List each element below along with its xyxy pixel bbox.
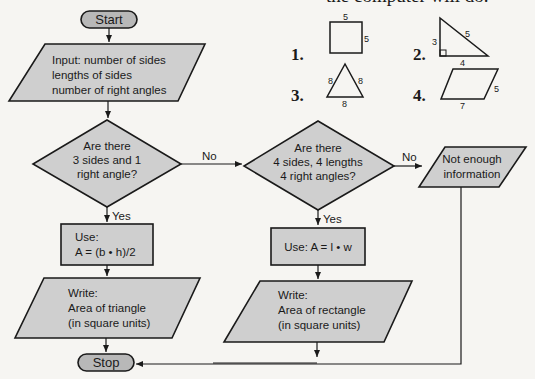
- start-label: Start: [95, 12, 123, 27]
- input-line-1: Input: number of sides: [52, 54, 166, 66]
- process1-line-1: Use:: [75, 231, 99, 243]
- decision2-no-label: No: [402, 151, 417, 163]
- output2-line-2: Area of rectangle: [278, 304, 366, 316]
- process2-rect: Use: A = l • w: [271, 228, 365, 265]
- decision1-no-label: No: [202, 150, 217, 162]
- figure-3-equilateral-triangle: 3. 8 8 8: [291, 64, 363, 109]
- figure-4-number: 4.: [413, 86, 426, 105]
- flowchart-canvas: the computer will do. Start Input: numbe…: [0, 0, 535, 379]
- input-parallelogram: Input: number of sides lengths of sides …: [9, 44, 205, 101]
- figure-2-label-left: 3: [432, 37, 437, 47]
- decision1-line-3: right angle?: [77, 168, 137, 180]
- stop-terminal: Stop: [78, 354, 134, 371]
- input-line-3: number of right angles: [52, 84, 167, 96]
- figure-4-label-right: 5: [494, 84, 499, 94]
- decision1-line-2: 3 sides and 1: [73, 154, 141, 166]
- output3-line-1: Not enough: [442, 153, 501, 165]
- output2-line-3: (in square units): [278, 319, 361, 331]
- output1-parallelogram: Write: Area of triangle (in square units…: [15, 278, 200, 338]
- figure-2-number: 2.: [413, 45, 426, 64]
- figure-3-label-left: 8: [328, 76, 333, 86]
- figure-1-label-right: 5: [364, 34, 369, 44]
- decision1-diamond: Are there 3 sides and 1 right angle?: [33, 120, 181, 207]
- figure-3-number: 3.: [291, 86, 304, 105]
- process2-label: Use: A = l • w: [284, 241, 352, 253]
- process1-line-2: A = (b • h)/2: [75, 246, 136, 258]
- decision2-line-1: Are there: [294, 142, 341, 154]
- decision1-line-1: Are there: [83, 140, 130, 152]
- figure-4-parallelogram: 4. 5 7: [413, 69, 499, 111]
- decision2-diamond: Are there 4 sides, 4 lengths 4 right ang…: [244, 121, 394, 210]
- start-terminal: Start: [81, 11, 137, 28]
- output3-line-2: information: [444, 168, 501, 180]
- decision2-line-3: 4 right angles?: [280, 170, 355, 182]
- figure-3-label-right: 8: [358, 76, 363, 86]
- figure-2-label-bottom: 4: [460, 58, 465, 68]
- output3-parallelogram: Not enough information: [419, 147, 526, 187]
- output2-line-1: Write:: [278, 289, 308, 301]
- figure-2-label-hyp: 5: [465, 29, 470, 39]
- figure-4-label-bottom: 7: [460, 101, 465, 111]
- figure-1-number: 1.: [291, 45, 304, 64]
- output1-line-1: Write:: [68, 287, 98, 299]
- figure-3-label-bottom: 8: [342, 99, 347, 109]
- output2-parallelogram: Write: Area of rectangle (in square unit…: [224, 281, 412, 342]
- figure-1-label-top: 5: [343, 12, 348, 22]
- decision2-line-2: 4 sides, 4 lengths: [273, 156, 363, 168]
- output1-line-2: Area of triangle: [68, 302, 146, 314]
- figure-1-square: 1. 5 5: [291, 12, 369, 64]
- decision1-yes-label: Yes: [112, 210, 131, 222]
- figure-2-right-triangle: 2. 3 5 4: [413, 18, 488, 68]
- stop-label: Stop: [93, 355, 120, 370]
- output1-line-3: (in square units): [68, 317, 151, 329]
- header-text: the computer will do.: [326, 0, 489, 6]
- input-line-2: lengths of sides: [52, 69, 132, 81]
- decision2-yes-label: Yes: [323, 213, 342, 225]
- process1-rect: Use: A = (b • h)/2: [61, 224, 153, 265]
